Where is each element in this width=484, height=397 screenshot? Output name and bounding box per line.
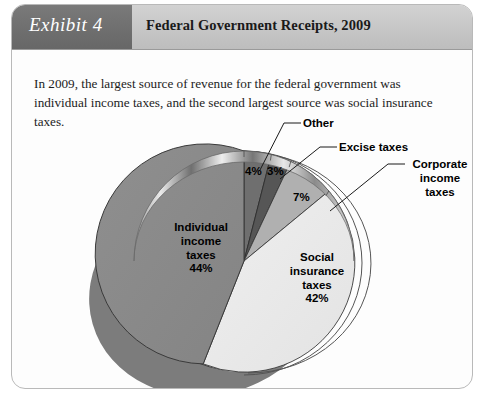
pie-chart-figure: Individual income taxes 44% Social insur… bbox=[12, 101, 472, 389]
pie-percent-individual-income-taxes: 44% bbox=[145, 262, 257, 274]
exhibit-number-label: Exhibit 4 bbox=[29, 14, 103, 36]
exhibit-title: Federal Government Receipts, 2009 bbox=[146, 17, 371, 34]
pie-percent-social-insurance-taxes: 42% bbox=[262, 292, 372, 304]
pie-percent-other: 4% bbox=[245, 165, 262, 177]
pie-label-social-insurance-taxes: Social insurance taxes bbox=[262, 250, 372, 292]
pie-percent-excise-taxes: 3% bbox=[267, 165, 284, 177]
pie-callout-excise-taxes: Excise taxes bbox=[339, 140, 408, 154]
pie-callout-corporate-income-taxes: Corporate income taxes bbox=[407, 157, 473, 199]
exhibit-header: Exhibit 4 Federal Government Receipts, 2… bbox=[12, 5, 472, 50]
exhibit-card: Exhibit 4 Federal Government Receipts, 2… bbox=[11, 4, 473, 389]
pie-callout-other: Other bbox=[303, 116, 334, 130]
pie-label-individual-income-taxes: Individual income taxes bbox=[145, 220, 257, 262]
pie-percent-corporate-income-taxes: 7% bbox=[293, 191, 310, 203]
